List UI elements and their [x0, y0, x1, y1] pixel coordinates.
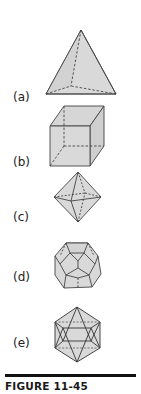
- panel-label-e: (e): [13, 336, 30, 350]
- panel-label-a: (a): [13, 90, 30, 104]
- panel-label-d: (d): [13, 270, 30, 284]
- cube-drawing: [50, 106, 104, 166]
- octahedron-drawing: [54, 172, 101, 222]
- panel-label-c: (c): [13, 210, 29, 224]
- tetrahedron-drawing: [46, 30, 116, 94]
- icosahedron-drawing: [55, 307, 100, 362]
- caption-rule: [5, 374, 136, 377]
- panel-label-b: (b): [13, 155, 30, 169]
- dodecahedron-drawing: [55, 243, 101, 288]
- polyhedra-figure: (a) (b) (c) (d) (e) FIGURE 11-45: [0, 0, 141, 394]
- figure-caption: FIGURE 11-45: [5, 380, 88, 392]
- polyhedra-drawings: [0, 0, 141, 394]
